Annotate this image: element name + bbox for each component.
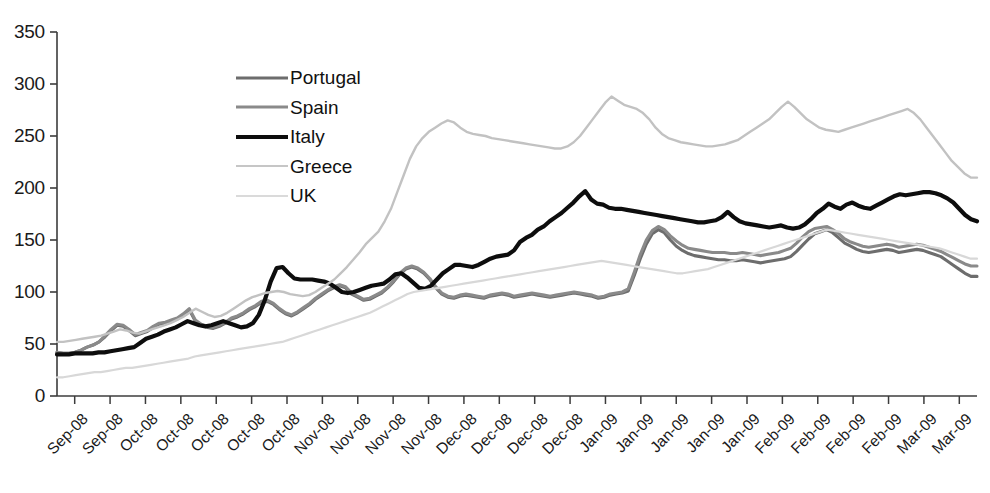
x-axis-ticks: [75, 396, 960, 404]
y-axis-tick-label: 350: [1, 21, 45, 43]
legend-item-portugal: Portugal: [236, 63, 406, 93]
legend-label-italy: Italy: [290, 127, 325, 146]
y-axis-tick-label: 200: [1, 177, 45, 199]
y-axis-tick-label: 50: [1, 333, 45, 355]
legend-label-uk: UK: [290, 186, 316, 205]
y-axis-tick-label: 150: [1, 229, 45, 251]
legend-label-portugal: Portugal: [290, 68, 361, 87]
legend-label-spain: Spain: [290, 98, 339, 117]
legend-item-greece: Greece: [236, 152, 406, 182]
y-axis-tick-label: 100: [1, 281, 45, 303]
legend-swatch-portugal: [236, 72, 288, 84]
chart-legend: Portugal Spain Italy Greece UK: [236, 63, 406, 211]
y-axis-tick-label: 250: [1, 125, 45, 147]
y-axis-tick-label: 0: [1, 385, 45, 407]
legend-swatch-italy: [236, 131, 288, 143]
legend-label-greece: Greece: [290, 157, 352, 176]
series-line-italy: [57, 191, 977, 354]
series-line-uk: [57, 230, 977, 378]
y-axis-tick-label: 300: [1, 73, 45, 95]
legend-swatch-spain: [236, 101, 288, 113]
legend-swatch-uk: [236, 190, 288, 202]
chart-axes: [50, 32, 977, 404]
legend-item-italy: Italy: [236, 122, 406, 152]
line-chart: 050100150200250300350 Sep-08Sep-08Oct-08…: [0, 0, 990, 493]
chart-series-group: [57, 96, 977, 377]
series-line-greece: [57, 96, 977, 341]
legend-swatch-greece: [236, 160, 288, 172]
legend-item-spain: Spain: [236, 93, 406, 123]
legend-item-uk: UK: [236, 181, 406, 211]
